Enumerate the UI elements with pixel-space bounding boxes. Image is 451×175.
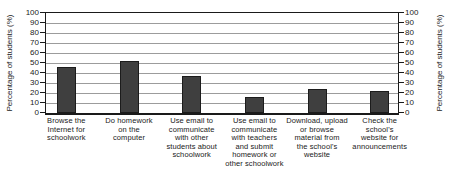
bar xyxy=(370,91,389,113)
y-tick-mark-left xyxy=(40,92,45,93)
y-tick-label-left: 90 xyxy=(0,18,39,27)
y-tick-label-right: 30 xyxy=(405,78,445,87)
y-tick-mark-right xyxy=(399,62,404,63)
y-tick-label-right: 90 xyxy=(405,18,445,27)
y-tick-mark-right xyxy=(399,42,404,43)
category-label: Check the school's website for announcem… xyxy=(348,117,411,151)
bar-chart: Percentage of students (%) Browse the In… xyxy=(0,0,451,175)
bars-layer xyxy=(35,13,411,113)
bar-slot xyxy=(98,13,161,113)
bar-slot xyxy=(35,13,98,113)
bar-slot xyxy=(160,13,223,113)
y-tick-label-right: 50 xyxy=(405,58,445,67)
y-tick-mark-left xyxy=(40,82,45,83)
bar-slot xyxy=(286,13,349,113)
y-tick-label-left: 60 xyxy=(0,48,39,57)
y-tick-label-left: 10 xyxy=(0,98,39,107)
y-tick-mark-left xyxy=(40,22,45,23)
y-tick-mark-right xyxy=(399,112,404,113)
category-label: Use email to communicate with other stud… xyxy=(160,117,223,160)
category-label: Download, upload or browse material from… xyxy=(286,117,349,160)
y-tick-label-left: 0 xyxy=(0,108,39,117)
y-tick-mark-right xyxy=(399,12,404,13)
y-tick-label-left: 70 xyxy=(0,38,39,47)
y-tick-label-right: 10 xyxy=(405,98,445,107)
y-tick-label-right: 70 xyxy=(405,38,445,47)
y-tick-mark-left xyxy=(40,42,45,43)
y-tick-label-left: 50 xyxy=(0,58,39,67)
y-tick-mark-left xyxy=(40,62,45,63)
y-tick-mark-right xyxy=(399,22,404,23)
y-tick-mark-left xyxy=(40,112,45,113)
y-tick-label-left: 80 xyxy=(0,28,39,37)
category-label: Browse the Internet for schoolwork xyxy=(35,117,98,143)
y-tick-mark-right xyxy=(399,72,404,73)
y-tick-mark-left xyxy=(40,72,45,73)
y-tick-label-left: 20 xyxy=(0,88,39,97)
y-tick-mark-left xyxy=(40,12,45,13)
y-tick-label-left: 100 xyxy=(0,8,39,17)
y-tick-label-left: 40 xyxy=(0,68,39,77)
y-tick-label-right: 60 xyxy=(405,48,445,57)
y-tick-mark-left xyxy=(40,52,45,53)
y-tick-label-left: 30 xyxy=(0,78,39,87)
y-tick-mark-left xyxy=(40,32,45,33)
y-tick-mark-right xyxy=(399,92,404,93)
y-tick-mark-right xyxy=(399,102,404,103)
bar-slot xyxy=(223,13,286,113)
y-tick-label-right: 40 xyxy=(405,68,445,77)
bar xyxy=(120,61,139,113)
bar xyxy=(308,89,327,113)
y-tick-label-right: 100 xyxy=(405,8,445,17)
category-label: Use email to communicate with teachers a… xyxy=(223,117,286,169)
category-axis: Browse the Internet for schoolworkDo hom… xyxy=(35,117,411,169)
y-tick-label-right: 80 xyxy=(405,28,445,37)
category-label: Do homework on the computer xyxy=(98,117,161,143)
y-tick-label-right: 20 xyxy=(405,88,445,97)
y-tick-mark-right xyxy=(399,52,404,53)
bar xyxy=(182,76,201,113)
y-tick-mark-right xyxy=(399,32,404,33)
bar-slot xyxy=(348,13,411,113)
y-tick-mark-right xyxy=(399,82,404,83)
y-tick-mark-left xyxy=(40,102,45,103)
bar xyxy=(57,67,76,113)
y-tick-label-right: 0 xyxy=(405,108,445,117)
bar xyxy=(245,97,264,113)
